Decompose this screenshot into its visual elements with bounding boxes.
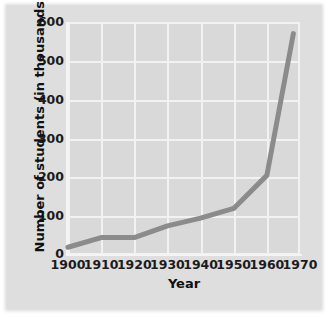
x-axis-title: Year bbox=[68, 276, 300, 291]
plot-wrapper: 600 500 400 300 200 100 0 1900 1910 1920… bbox=[0, 0, 328, 317]
data-series-line bbox=[68, 22, 300, 255]
x-axis-ticks: 1900 1910 1920 1930 1940 1950 1960 1970 bbox=[68, 259, 300, 275]
y-axis-title: Number of students (in thousands) bbox=[32, 23, 47, 253]
x-tick-label: 1970 bbox=[280, 259, 320, 272]
chart-figure: 600 500 400 300 200 100 0 1900 1910 1920… bbox=[0, 0, 328, 317]
